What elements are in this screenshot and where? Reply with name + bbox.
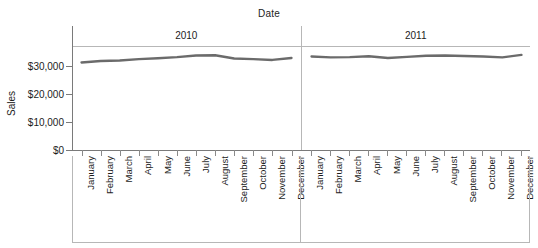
facet-title-2011: 2011 xyxy=(301,26,531,46)
panel-2011 xyxy=(301,47,531,151)
y-tick-label-0: $0 xyxy=(2,145,64,156)
x-label-2010-january: January xyxy=(85,156,96,190)
panel-bottom-border xyxy=(72,242,530,243)
x-label-2011-may: May xyxy=(391,156,402,174)
y-axis-title: Sales xyxy=(6,74,17,134)
sales-line-2011 xyxy=(312,55,522,58)
sales-by-date-line-chart: Date 2010 2011 $0$10,000$20,000$30,000 S… xyxy=(0,0,538,248)
x-label-2010-august: August xyxy=(219,156,230,186)
y-tick-label-30000: $30,000 xyxy=(2,60,64,71)
x-label-2010-may: May xyxy=(162,156,173,174)
y-tick-30000 xyxy=(66,66,72,67)
x-label-2010-july: July xyxy=(200,156,211,173)
x-label-2011-july: July xyxy=(429,156,440,173)
x-label-2010-november: November xyxy=(276,156,287,200)
x-label-2011-november: November xyxy=(505,156,516,200)
facet-title-2010: 2010 xyxy=(72,26,301,46)
x-label-2011-february: February xyxy=(333,156,344,194)
y-tick-0 xyxy=(66,150,72,151)
panel-right-border xyxy=(529,156,530,242)
panel-divider-bottom xyxy=(300,156,301,242)
sales-line-2010 xyxy=(82,55,292,62)
x-label-2011-october: October xyxy=(486,156,497,190)
series-svg-2011 xyxy=(302,47,531,151)
panel-2010 xyxy=(72,47,301,151)
panel-left-border xyxy=(72,156,73,242)
x-label-2010-march: March xyxy=(123,156,134,182)
x-axis-title-top: Date xyxy=(0,8,538,19)
x-label-2011-april: April xyxy=(371,156,382,175)
x-label-2010-april: April xyxy=(142,156,153,175)
plot-area xyxy=(72,46,530,150)
y-tick-10000 xyxy=(66,122,72,123)
x-label-2011-september: September xyxy=(467,156,478,202)
facet-header-strip: 2010 2011 xyxy=(72,26,530,46)
x-label-2011-march: March xyxy=(352,156,363,182)
x-label-2011-august: August xyxy=(448,156,459,186)
x-label-2010-october: October xyxy=(257,156,268,190)
x-label-2010-september: September xyxy=(238,156,249,202)
y-tick-20000 xyxy=(66,94,72,95)
y-axis-line xyxy=(72,26,73,150)
x-axis-labels: JanuaryFebruaryMarchAprilMayJuneJulyAugu… xyxy=(72,156,530,242)
x-label-2010-february: February xyxy=(104,156,115,194)
x-label-2011-january: January xyxy=(314,156,325,190)
x-label-2011-june: June xyxy=(410,156,421,177)
x-label-2010-june: June xyxy=(181,156,192,177)
series-svg-2010 xyxy=(72,47,301,151)
